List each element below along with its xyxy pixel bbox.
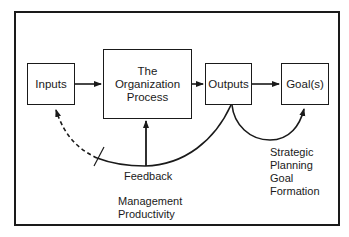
strategic-line-3: Goal [270, 172, 320, 185]
feedback-curve-dashed [56, 110, 97, 158]
strategic-line-2: Planning [270, 159, 320, 172]
management-line-2: Productivity [118, 208, 182, 221]
node-outputs: Outputs [205, 63, 252, 105]
node-organization-process: The Organization Process [103, 49, 192, 119]
strategic-planning-label: Strategic Planning Goal Formation [270, 146, 320, 198]
strategic-line-4: Formation [270, 185, 320, 198]
node-inputs: Inputs [27, 63, 75, 105]
node-inputs-label: Inputs [35, 78, 66, 91]
node-outputs-label: Outputs [208, 78, 248, 91]
strategic-line-1: Strategic [270, 146, 320, 159]
process-label-3: Process [127, 91, 169, 104]
management-productivity-label: Management Productivity [118, 195, 182, 221]
process-label-1: The [138, 65, 158, 78]
management-line-1: Management [118, 195, 182, 208]
feedback-label: Feedback [124, 170, 172, 183]
arrow-strategic-loop [232, 105, 304, 140]
process-label-2: Organization [115, 78, 180, 91]
node-goals-label: Goal(s) [286, 78, 324, 91]
node-goals: Goal(s) [281, 63, 329, 105]
